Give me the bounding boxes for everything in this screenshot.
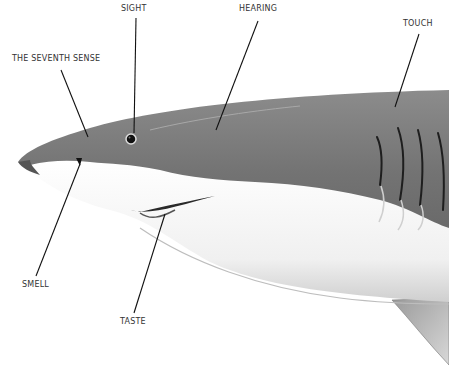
label-seventh-sense: THE SEVENTH SENSE <box>12 54 100 63</box>
shark-senses-diagram: SIGHT HEARING TOUCH THE SEVENTH SENSE SM… <box>0 0 449 371</box>
pectoral-fin <box>392 298 449 365</box>
label-sight: SIGHT <box>121 4 147 13</box>
label-hearing: HEARING <box>239 4 277 13</box>
label-smell: SMELL <box>22 280 49 289</box>
label-touch: TOUCH <box>403 19 433 28</box>
label-taste: TASTE <box>120 317 146 326</box>
leader-taste <box>134 214 165 313</box>
leader-seventh-sense <box>61 70 88 137</box>
eye <box>126 134 136 144</box>
leader-sight <box>134 18 136 133</box>
